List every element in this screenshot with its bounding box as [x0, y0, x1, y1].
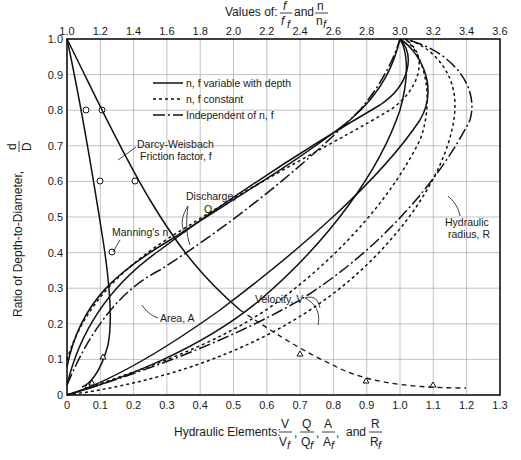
darcy-weisbach-curve-dashed	[240, 310, 466, 388]
y-axis-label-numerator: d	[5, 143, 19, 150]
annotation-friction-factor: Friction factor, f	[140, 150, 212, 162]
bottom-tick: 1.0	[392, 399, 407, 411]
bottom-tick: 0.4	[193, 399, 208, 411]
annotation-darcy-weisbach: Darcy-Weisbach	[137, 138, 214, 150]
bottom-tick: 0.9	[359, 399, 374, 411]
legend-solid-label: n, f variable with depth	[186, 77, 291, 89]
y-axis-label-denominator: D	[20, 142, 34, 151]
top-f-subscript: f	[287, 18, 291, 30]
comma: ,	[316, 426, 319, 440]
y-tick: 0.7	[48, 140, 63, 152]
y-tick: 0.9	[48, 69, 63, 81]
bottom-tick: 0.3	[159, 399, 174, 411]
top-tick: 1.4	[126, 25, 141, 37]
top-tick: 2.2	[259, 25, 274, 37]
top-f-numerator: f	[283, 0, 288, 13]
x-r-subscript: f	[378, 439, 382, 451]
top-tick: 2.4	[292, 25, 307, 37]
top-axis-title-prefix: Values of:	[225, 5, 277, 19]
y-axis-ticks: 0 0.1 0.2 0.3 0.4 0.5 0.6 0.7 0.8 0.9 1.…	[48, 33, 63, 401]
x-q-denominator: Q	[301, 435, 310, 449]
y-tick: 0	[57, 389, 63, 401]
x-and: and	[346, 425, 366, 439]
y-tick: 0.3	[48, 282, 63, 294]
top-tick: 1.8	[193, 25, 208, 37]
bottom-tick: 1.3	[492, 399, 507, 411]
x-axis-label-prefix: Hydraulic Elements:	[174, 425, 281, 439]
top-tick: 3.2	[426, 25, 441, 37]
top-n-denominator: n	[316, 14, 323, 28]
top-and: and	[294, 5, 314, 19]
top-tick: 2.0	[226, 25, 241, 37]
top-tick: 1.2	[93, 25, 108, 37]
comma: ,	[336, 426, 339, 440]
discharge-variable-curve	[67, 39, 408, 385]
annotation-hydraulic: Hydraulic	[445, 216, 489, 228]
legend-dashdot-label: Independent of n, f	[186, 109, 274, 121]
hydraulic-elements-chart: Values of: f f f and n n f	[0, 0, 521, 460]
bottom-axis-title: Hydraulic Elements: V V f , Q Q f , A A …	[174, 417, 382, 451]
y-tick: 0.4	[48, 247, 63, 259]
bottom-tick: 0.6	[259, 399, 274, 411]
bottom-tick: 1.1	[426, 399, 441, 411]
y-tick: 0.5	[48, 211, 63, 223]
top-f-denominator: f	[281, 14, 286, 28]
x-q-subscript: f	[310, 439, 314, 451]
annotations: Darcy-Weisbach Friction factor, f Discha…	[112, 138, 490, 325]
y-tick: 1.0	[48, 33, 63, 45]
x-v-denominator: V	[279, 435, 287, 449]
legend-dotted-label: n, f constant	[186, 93, 243, 105]
bottom-tick: 0.5	[226, 399, 241, 411]
y-tick: 0.2	[48, 318, 63, 330]
top-n-numerator: n	[317, 0, 324, 13]
top-tick: 3.4	[459, 25, 474, 37]
top-tick: 2.6	[326, 25, 341, 37]
bottom-tick: 0.7	[292, 399, 307, 411]
bottom-tick: 1.2	[459, 399, 474, 411]
annotation-area: Area, A	[160, 312, 194, 324]
x-a-denominator: A	[323, 435, 331, 449]
y-axis-label: Ratio of Depth-to-Diameter, d D	[5, 141, 34, 317]
top-tick: 3.6	[492, 25, 507, 37]
annotation-velocity: Velocity, V	[255, 293, 303, 305]
top-tick: 3.0	[392, 25, 407, 37]
bottom-tick: 0	[64, 399, 70, 411]
x-v-subscript: f	[287, 439, 291, 451]
annotation-mannings-n: Manning's n	[112, 226, 168, 238]
bottom-tick: 0.1	[93, 399, 108, 411]
mannings-n-curve	[67, 39, 110, 387]
y-axis-label-text: Ratio of Depth-to-Diameter,	[11, 171, 25, 317]
x-r-numerator: R	[371, 417, 380, 431]
annotation-discharge-q: Q	[204, 203, 212, 215]
legend: n, f variable with depth n, f constant I…	[153, 77, 291, 121]
y-tick: 0.6	[48, 175, 63, 187]
x-a-subscript: f	[331, 439, 335, 451]
darcy-weisbach-markers	[132, 178, 436, 387]
x-v-numerator: V	[281, 417, 289, 431]
y-tick: 0.8	[48, 104, 63, 116]
bottom-tick: 0.8	[326, 399, 341, 411]
annotation-radius: radius, R	[448, 228, 490, 240]
top-tick: 2.8	[359, 25, 374, 37]
comma: ,	[294, 426, 297, 440]
x-a-numerator: A	[324, 417, 332, 431]
grid	[67, 39, 500, 395]
bottom-tick: 0.2	[126, 399, 141, 411]
x-q-numerator: Q	[302, 417, 311, 431]
top-tick: 1.6	[159, 25, 174, 37]
bottom-axis-ticks: 0 0.1 0.2 0.3 0.4 0.5 0.6 0.7 0.8 0.9 1.…	[64, 399, 508, 411]
y-tick: 0.1	[48, 353, 63, 365]
annotation-discharge: Discharge,	[186, 190, 236, 202]
